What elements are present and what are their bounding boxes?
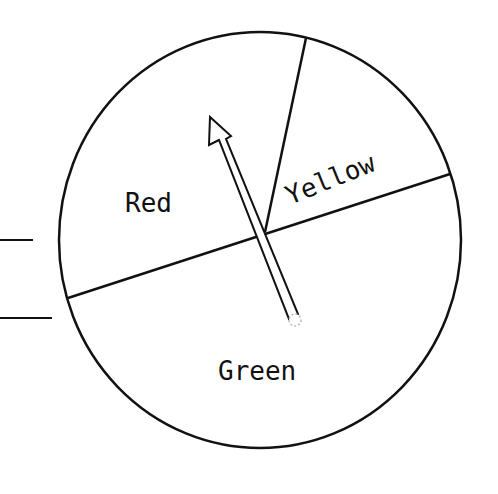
- section-label-red: Red: [125, 188, 172, 218]
- section-label-green: Green: [218, 356, 296, 386]
- spinner-diagram: Red Yellow Green: [0, 0, 498, 494]
- spinner-arrow-icon: [209, 117, 301, 326]
